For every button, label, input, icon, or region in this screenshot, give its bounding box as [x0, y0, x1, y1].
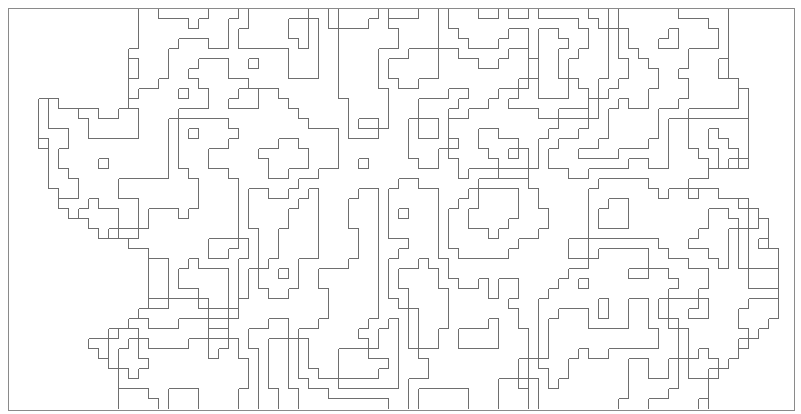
contour-lines	[39, 9, 779, 409]
contour-figure	[0, 0, 801, 414]
figure-frame	[9, 9, 795, 411]
contour-path	[39, 9, 779, 409]
contour-plot-svg	[0, 0, 801, 414]
